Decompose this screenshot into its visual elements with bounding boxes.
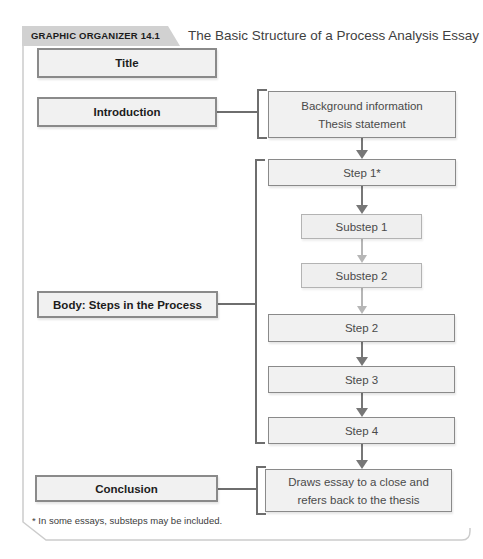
step1-label: Step 1* [343,164,381,182]
step3-box: Step 3 [268,366,455,393]
body-box: Body: Steps in the Process [37,291,218,318]
substeps-footnote: * In some essays, substeps may be includ… [32,515,222,526]
graphic-organizer-badge: GRAPHIC ORGANIZER 14.1 [22,26,180,46]
conclusion-detail-line1: Draws essay to a close and [288,473,429,491]
step4-box: Step 4 [268,417,455,444]
step1-box: Step 1* [268,159,456,186]
conclusion-detail-box: Draws essay to a close and refers back t… [265,469,452,512]
substep1-label: Substep 1 [336,218,388,236]
step2-box: Step 2 [268,314,455,342]
step3-label: Step 3 [345,371,378,389]
body-box-label: Body: Steps in the Process [53,299,202,311]
conclusion-box: Conclusion [35,475,218,502]
background-information-line: Background information [301,97,422,115]
substep1-box: Substep 1 [301,214,422,239]
substep2-label: Substep 2 [336,267,388,285]
page-title: The Basic Structure of a Process Analysi… [188,26,479,46]
arrow-introdetail-step1 [356,138,368,159]
introduction-box-label: Introduction [93,106,160,118]
arrow-substep2-step2 [357,288,367,314]
introduction-box: Introduction [37,97,217,127]
arrow-step2-step3 [356,342,368,366]
thesis-statement-line: Thesis statement [318,115,406,133]
title-box-label: Title [115,57,138,69]
title-box: Title [37,48,217,78]
arrow-step4-conclusiondetail [356,444,368,469]
body-bracket [256,160,265,443]
arrow-step1-substep1 [356,186,368,214]
substep2-box: Substep 2 [301,263,422,288]
step2-label: Step 2 [345,319,378,337]
arrow-step3-step4 [356,393,368,417]
conclusion-box-label: Conclusion [95,483,158,495]
graphic-organizer-page: GRAPHIC ORGANIZER 14.1 The Basic Structu… [0,0,483,559]
introduction-bracket [258,90,267,138]
arrow-substep1-substep2 [357,239,367,263]
conclusion-detail-line2: refers back to the thesis [297,491,419,509]
introduction-detail-box: Background information Thesis statement [268,91,456,138]
step4-label: Step 4 [345,422,378,440]
